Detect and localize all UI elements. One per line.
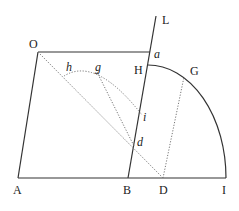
- label-i-small: i: [143, 110, 146, 124]
- dotted-d-g: [163, 77, 184, 178]
- label-g-small: g: [95, 60, 101, 74]
- dotted-arc-h-i: [64, 71, 142, 115]
- line-o-a: [18, 52, 38, 178]
- label-h-small: h: [66, 60, 72, 74]
- label-b: B: [123, 183, 131, 197]
- label-g: G: [190, 64, 199, 78]
- label-a: A: [13, 183, 22, 197]
- quarter-arc-h-i: [148, 65, 226, 178]
- label-d: D: [159, 183, 168, 197]
- label-a-small: a: [154, 47, 160, 61]
- dotted-g-d: [97, 72, 134, 146]
- label-o: O: [29, 37, 38, 51]
- geometry-diagram: O A B D I L a H G i d h g: [0, 0, 239, 211]
- label-h: H: [134, 63, 143, 77]
- line-b-l: [128, 16, 156, 178]
- label-d-small: d: [137, 135, 144, 149]
- label-i: I: [222, 183, 226, 197]
- label-l: L: [162, 13, 169, 27]
